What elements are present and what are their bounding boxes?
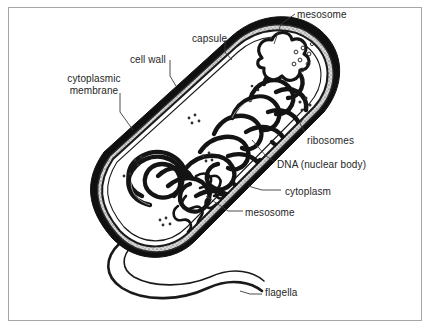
label-ribosomes: ribosomes: [307, 135, 354, 147]
label-flagella: flagella: [265, 287, 298, 299]
label-capsule: capsule: [192, 33, 227, 45]
label-mesosome-top: mesosome: [297, 9, 347, 21]
label-cytoplasm: cytoplasm: [285, 186, 331, 198]
leader-cytoplasm: [248, 186, 281, 190]
bacterial-cell-diagram: [0, 0, 433, 331]
label-cytoplasmic-membrane: cytoplasmic membrane: [48, 73, 140, 96]
leader-flagella: [240, 291, 262, 294]
label-dna: DNA (nuclear body): [277, 159, 366, 171]
label-cytoplasmic-membrane-line2: membrane: [70, 85, 119, 96]
label-cell-wall: cell wall: [130, 54, 166, 66]
figure-page: mesosome capsule cell wall cytoplasmic m…: [0, 0, 433, 331]
leader-cytoplasmic-membrane: [120, 93, 133, 130]
mesosome-top-structure: [258, 33, 309, 81]
label-mesosome-bottom: mesosome: [245, 207, 295, 219]
label-cytoplasmic-membrane-line1: cytoplasmic: [67, 73, 120, 84]
leader-cell-wall: [170, 60, 176, 86]
